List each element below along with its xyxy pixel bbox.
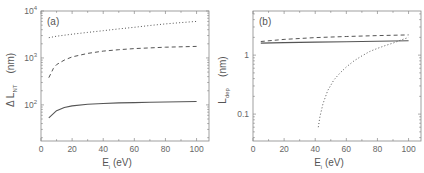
y-tick-label: 1	[244, 50, 249, 60]
x-axis-label: Ei (eV)	[102, 157, 132, 170]
x-tick-label: 100	[189, 144, 203, 154]
x-tick-label: 20	[279, 144, 289, 154]
series-dashed-line	[49, 46, 197, 77]
plot-frame	[41, 11, 209, 141]
y-tick-label: 104	[24, 5, 37, 16]
x-tick-label: 0	[39, 144, 44, 154]
x-tick-label: 100	[401, 144, 415, 154]
chart-panel-a: 020406080100102103104(a)Ei (eV)Δ LNT (nm…	[5, 5, 209, 170]
x-tick-label: 80	[373, 144, 383, 154]
series-dashed-line	[261, 35, 409, 42]
series-solid-line	[49, 102, 197, 118]
x-tick-label: 60	[342, 144, 352, 154]
figure: 020406080100102103104(a)Ei (eV)Δ LNT (nm…	[0, 0, 424, 173]
y-tick-label: 0.1	[237, 109, 249, 119]
x-tick-label: 40	[310, 144, 320, 154]
series-solid-line	[261, 41, 409, 43]
chart-panel-b: 0204060801000.11(b)Ei (eV)Ldep (nm)	[217, 11, 421, 170]
x-axis-label: Ei (eV)	[314, 157, 344, 170]
y-axis-label: Δ LNT (nm)	[5, 53, 18, 107]
x-tick-label: 20	[67, 144, 77, 154]
y-tick-label: 102	[24, 99, 37, 110]
panel-label: (a)	[47, 16, 59, 27]
x-tick-label: 40	[98, 144, 108, 154]
x-tick-label: 80	[161, 144, 171, 154]
y-axis-label: Ldep (nm)	[217, 56, 230, 103]
series-dotted-line	[49, 21, 197, 37]
x-tick-label: 0	[251, 144, 256, 154]
y-tick-label: 103	[24, 52, 37, 63]
x-tick-label: 60	[130, 144, 140, 154]
panel-label: (b)	[259, 16, 271, 27]
series-dotted-line	[318, 37, 408, 127]
